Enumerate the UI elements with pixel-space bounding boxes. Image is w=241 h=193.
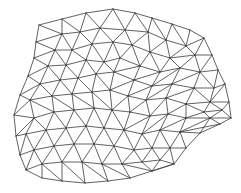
mesh-edge — [114, 72, 134, 80]
mesh-edge — [55, 50, 66, 65]
mesh-edge — [212, 55, 218, 70]
mesh-edge — [140, 66, 160, 72]
mesh-edge — [80, 13, 86, 32]
mesh-edge — [128, 96, 130, 112]
mesh-edge — [152, 130, 160, 148]
mesh-edge — [114, 130, 124, 146]
mesh-edge — [26, 134, 34, 150]
mesh-edge — [150, 52, 160, 72]
mesh-edge — [113, 42, 132, 45]
mesh-edge — [85, 181, 108, 183]
mesh-edge — [148, 32, 150, 52]
mesh-edge — [172, 84, 194, 88]
mesh-edge — [39, 19, 62, 25]
mesh-edge — [132, 45, 150, 52]
mesh-edge — [114, 146, 122, 164]
mesh-edge — [66, 128, 74, 144]
mesh-edge — [122, 150, 134, 164]
mesh-edge — [114, 66, 140, 72]
mesh-edge — [130, 100, 146, 112]
mesh-edge — [46, 130, 54, 146]
mesh-edge — [72, 50, 86, 60]
mesh-edge — [46, 112, 54, 130]
mesh-edge — [104, 42, 113, 62]
mesh-edge — [113, 42, 120, 58]
mesh-edge — [62, 13, 86, 19]
mesh-edge — [225, 84, 229, 102]
mesh-edge — [166, 24, 172, 40]
mesh-edge — [180, 124, 220, 132]
mesh-edge — [26, 130, 46, 134]
mesh-edge — [148, 18, 152, 32]
mesh-edge — [108, 178, 130, 181]
mesh-edge — [62, 181, 85, 183]
mesh-edge — [150, 52, 170, 58]
mesh-edge — [174, 148, 186, 164]
mesh-edge — [34, 146, 54, 150]
mesh-edge — [112, 110, 124, 130]
mesh-edge — [186, 104, 204, 112]
mesh-edge — [114, 146, 134, 150]
mesh-edge — [74, 126, 86, 144]
mesh-edge — [66, 60, 86, 65]
mesh-edge — [55, 34, 62, 50]
mesh-edge — [54, 128, 66, 146]
mesh-edge — [14, 115, 16, 136]
mesh-edge — [160, 160, 174, 164]
mesh-edge — [142, 160, 160, 162]
mesh-edge — [60, 80, 72, 94]
mesh-edge — [134, 134, 142, 150]
mesh-edge — [20, 155, 26, 170]
mesh-edge — [160, 114, 168, 130]
mesh-edge — [122, 162, 142, 164]
mesh-edge — [132, 32, 148, 45]
mesh-edge — [186, 30, 190, 46]
mesh-edge — [78, 78, 92, 92]
mesh-edge — [104, 62, 114, 72]
mesh-edge — [229, 102, 231, 118]
mesh-edge — [54, 112, 66, 128]
mesh-edge — [160, 148, 170, 160]
mesh-edge — [30, 96, 52, 100]
mesh-edge — [86, 9, 113, 13]
mesh-edge — [34, 150, 42, 164]
mesh-edge — [96, 62, 104, 74]
mesh-edge — [210, 102, 222, 110]
mesh-edge — [134, 66, 140, 80]
mesh-edge — [150, 98, 166, 116]
mesh-edge — [92, 44, 104, 62]
mesh-edge — [39, 25, 62, 34]
mesh-edge — [62, 162, 85, 183]
mesh-edge — [94, 128, 104, 144]
mesh-edge — [48, 65, 66, 66]
mesh-edge — [96, 74, 110, 90]
mesh-edge — [204, 38, 212, 55]
mesh-edge — [54, 110, 74, 112]
mesh-edge — [166, 98, 186, 104]
mesh-edge — [168, 114, 186, 118]
mesh-edge — [214, 70, 218, 88]
mesh-edge — [60, 65, 66, 80]
mesh-edge — [142, 148, 152, 162]
mesh-edge — [128, 96, 146, 100]
mesh-edge — [113, 9, 125, 30]
mesh-edge — [125, 30, 132, 45]
mesh-edge — [134, 80, 152, 86]
mesh-edge — [20, 95, 30, 100]
mesh-edge — [170, 58, 180, 68]
mesh-edge — [94, 108, 104, 128]
mesh-edge — [112, 110, 130, 112]
mesh-edge — [94, 108, 112, 110]
mesh-edge — [152, 148, 160, 160]
mesh-edge — [72, 32, 80, 50]
mesh-edge — [20, 76, 28, 95]
mesh-edge — [78, 74, 96, 78]
mesh-edge — [80, 28, 100, 32]
mesh-edge — [218, 70, 225, 84]
mesh-edge — [130, 112, 150, 116]
mesh-edge — [40, 66, 48, 84]
mesh-edge — [110, 90, 128, 96]
mesh-edge — [26, 118, 34, 134]
mesh-edge — [200, 72, 214, 88]
mesh-edge — [186, 38, 204, 46]
